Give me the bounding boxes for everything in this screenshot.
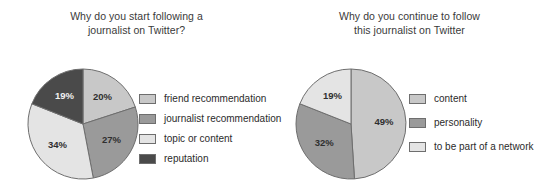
legend-swatch-icon-content (409, 94, 426, 104)
pie-slice-value-label: 32% (315, 137, 335, 148)
legend-swatch-icon-personality (409, 118, 426, 128)
legend-label-content: content (434, 93, 467, 104)
legend-item-content[interactable]: content (409, 93, 534, 104)
pie-slice-value-label: 19% (323, 90, 343, 101)
legend-label-journalist-recommendation: journalist recommendation (164, 113, 281, 124)
pie-left-svg: 20%27%34%19% (27, 68, 139, 180)
pie-slice-value-label: 27% (102, 134, 122, 145)
legend-item-personality[interactable]: personality (409, 117, 534, 128)
pie-right-svg: 49%32%19% (295, 68, 407, 180)
legend-item-to-be-part-of-a-network[interactable]: to be part of a network (409, 141, 534, 152)
legend-item-reputation[interactable]: reputation (139, 153, 281, 164)
legend-label-friend-recommendation: friend recommendation (164, 93, 266, 104)
pie-slice-value-label: 19% (55, 90, 75, 101)
legend-label-topic-or-content: topic or content (164, 133, 232, 144)
legend-swatch-icon-reputation (139, 154, 156, 164)
chart-panel-start-following: Why do you start following a journalist … (0, 0, 273, 193)
legend-swatch-icon-topic-or-content (139, 134, 156, 144)
legend-label-personality: personality (434, 117, 482, 128)
pie-slice-value-label: 20% (93, 91, 113, 102)
chart-title-right-line2: this journalist on Twitter (273, 23, 546, 37)
pie-chart-figure: Why do you start following a journalist … (0, 0, 546, 193)
legend-label-to-be-part-of-a-network: to be part of a network (434, 141, 534, 152)
legend-item-journalist-recommendation[interactable]: journalist recommendation (139, 113, 281, 124)
chart-title-right-line1: Why do you continue to follow (273, 9, 546, 23)
pie-chart-right: 49%32%19% (295, 68, 407, 180)
legend-left: friend recommendation journalist recomme… (139, 93, 281, 164)
pie-slice-value-label: 34% (48, 139, 68, 150)
legend-label-reputation: reputation (164, 153, 208, 164)
chart-title-left-line2: journalist on Twitter? (0, 23, 273, 37)
chart-panel-continue-following: Why do you continue to follow this journ… (273, 0, 546, 193)
legend-swatch-icon-to-be-part-of-a-network (409, 142, 426, 152)
legend-item-friend-recommendation[interactable]: friend recommendation (139, 93, 281, 104)
chart-title-left: Why do you start following a journalist … (0, 9, 273, 37)
chart-title-left-line1: Why do you start following a (0, 9, 273, 23)
legend-swatch-icon-journalist-recommendation (139, 114, 156, 124)
pie-slice-value-label: 49% (374, 116, 394, 127)
legend-item-topic-or-content[interactable]: topic or content (139, 133, 281, 144)
legend-right: content personality to be part of a netw… (409, 93, 534, 152)
legend-swatch-icon-friend-recommendation (139, 94, 156, 104)
chart-title-right: Why do you continue to follow this journ… (273, 9, 546, 37)
pie-left-slices (28, 69, 138, 179)
pie-chart-left: 20%27%34%19% (27, 68, 139, 180)
